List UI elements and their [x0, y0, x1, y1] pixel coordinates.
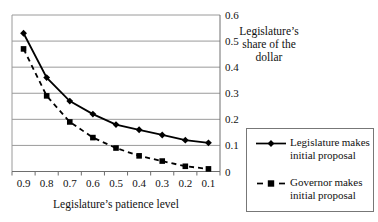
x-tick-label: 0.2	[178, 177, 192, 189]
legend-item-legislature: Legislature makes initial proposal	[255, 136, 371, 162]
y-axis-title: Legislature’s share of the dollar	[231, 25, 307, 64]
data-point-marker	[89, 111, 96, 118]
y-tick-label: 0.1	[225, 139, 239, 151]
bargaining-line-chart: 0.60.50.40.30.20.100.90.80.70.60.50.40.3…	[0, 0, 378, 222]
data-point-marker	[136, 126, 143, 133]
data-point-marker	[90, 135, 96, 141]
data-point-marker	[159, 132, 166, 139]
x-tick-label: 0.5	[109, 177, 123, 189]
y-tick-label: 0	[225, 166, 231, 178]
legend-item-governor: Governor makes initial proposal	[255, 176, 371, 202]
x-tick-label: 0.9	[17, 177, 31, 189]
data-point-marker	[183, 163, 189, 169]
data-point-marker	[113, 145, 119, 151]
data-point-marker	[159, 158, 165, 164]
dashed-square-legend-marker-icon	[255, 177, 287, 190]
x-tick-label: 0.4	[132, 177, 146, 189]
data-point-marker	[136, 153, 142, 159]
x-tick-label: 0.6	[86, 177, 100, 189]
y-tick-label: 0.2	[225, 113, 239, 125]
data-point-marker	[21, 46, 27, 52]
x-tick-label: 0.7	[63, 177, 77, 189]
y-tick-label: 0.3	[225, 87, 239, 99]
data-point-marker	[113, 121, 120, 128]
y-axis-title-line: share of the	[231, 38, 307, 51]
y-axis-title-line: dollar	[231, 51, 307, 64]
data-point-marker	[182, 137, 189, 144]
data-point-marker	[20, 30, 27, 37]
y-axis-title-line: Legislature’s	[231, 25, 307, 38]
x-axis-title: Legislature’s patience level	[36, 198, 196, 210]
data-point-marker	[206, 166, 212, 172]
legend-label: Legislature makes initial proposal	[290, 136, 371, 162]
solid-diamond-legend-marker-icon	[255, 137, 287, 150]
legend-label: Governor makes initial proposal	[290, 176, 371, 202]
x-tick-label: 0.8	[40, 177, 54, 189]
x-tick-label: 0.3	[155, 177, 169, 189]
x-tick-label: 0.1	[202, 177, 216, 189]
data-point-marker	[67, 119, 73, 125]
y-tick-label: 0.6	[225, 9, 239, 21]
legend-box: Legislature makes initial proposal Gover…	[246, 128, 374, 212]
data-point-marker	[44, 93, 50, 99]
